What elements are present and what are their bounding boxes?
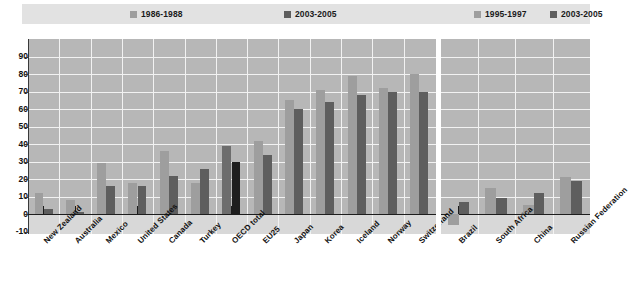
category-gridline — [247, 39, 248, 215]
category-gridline — [153, 39, 154, 215]
category-gridline-lower — [122, 215, 123, 234]
y-axis-tick-mark — [24, 214, 28, 215]
bar — [106, 186, 115, 214]
legend-item-2003-2005-left: 2003-2005 — [284, 4, 337, 24]
category-gridline-lower — [404, 215, 405, 234]
legend-swatch-dark-right-icon — [550, 11, 557, 18]
category-gridline-lower — [278, 215, 279, 234]
legend-item-1995-1997: 1995-1997 — [474, 4, 527, 24]
bar — [388, 92, 397, 215]
legend-item-1986-1988: 1986-1988 — [130, 4, 183, 24]
category-gridline — [216, 39, 217, 215]
category-gridline-lower — [515, 215, 516, 234]
y-axis: 9080706050403020100-10 — [0, 0, 28, 296]
y-axis-tick-mark — [24, 74, 28, 75]
bar — [560, 177, 571, 214]
category-gridline — [278, 39, 279, 215]
category-gridline — [185, 39, 186, 215]
category-gridline-lower — [153, 215, 154, 234]
bar — [128, 183, 137, 215]
category-gridline — [515, 39, 516, 215]
bar — [285, 100, 294, 214]
bar — [254, 141, 263, 215]
panel-divider — [436, 39, 441, 234]
bar — [294, 109, 303, 214]
chart-legend: 1986-1988 2003-2005 1995-1997 2003-2005 — [22, 4, 590, 24]
category-gridline — [404, 39, 405, 215]
category-gridline — [122, 39, 123, 215]
y-axis-tick-mark — [24, 179, 28, 180]
legend-label-1995-1997: 1995-1997 — [485, 9, 527, 19]
y-axis-tick-mark — [24, 144, 28, 145]
category-gridline — [341, 39, 342, 215]
category-gridline-lower — [553, 215, 554, 234]
category-gridline-lower — [341, 215, 342, 234]
bar — [263, 155, 272, 215]
category-gridline-lower — [91, 215, 92, 234]
category-gridline-lower — [247, 215, 248, 234]
y-axis-tick-mark — [24, 92, 28, 93]
category-gridline — [372, 39, 373, 215]
y-axis-tick-mark — [24, 127, 28, 128]
category-gridline — [553, 39, 554, 215]
bar — [232, 162, 241, 215]
category-gridline — [91, 39, 92, 215]
bar — [571, 181, 582, 214]
bar — [496, 198, 507, 214]
bar — [485, 188, 496, 214]
bar — [66, 200, 75, 214]
legend-label-2003-2005-right: 2003-2005 — [561, 9, 603, 19]
bar — [75, 212, 84, 214]
y-axis-tick-mark — [24, 197, 28, 198]
bar — [97, 163, 106, 214]
legend-swatch-light-icon — [130, 11, 137, 18]
bar — [410, 74, 419, 214]
legend-swatch-light-right-icon — [474, 11, 481, 18]
plot-area-lower — [28, 215, 590, 234]
bar — [523, 205, 534, 214]
y-axis-tick-mark — [24, 109, 28, 110]
category-gridline — [59, 39, 60, 215]
bar — [191, 183, 200, 215]
bar — [169, 176, 178, 215]
category-gridline-lower — [59, 215, 60, 234]
zero-baseline — [28, 214, 590, 215]
category-gridline-lower — [372, 215, 373, 234]
y-axis-line — [28, 39, 29, 234]
legend-item-2003-2005-right: 2003-2005 — [550, 4, 603, 24]
category-gridline-lower — [185, 215, 186, 234]
legend-label-2003-2005-left: 2003-2005 — [295, 9, 337, 19]
bar — [379, 88, 388, 214]
bar — [357, 95, 366, 214]
y-axis-tick-mark — [24, 162, 28, 163]
legend-label-1986-1988: 1986-1988 — [141, 9, 183, 19]
bar — [138, 186, 147, 214]
bar — [316, 90, 325, 214]
category-gridline — [310, 39, 311, 215]
bar — [459, 202, 470, 214]
bar — [222, 146, 231, 214]
category-gridline-lower — [216, 215, 217, 234]
y-axis-tick-mark — [24, 57, 28, 58]
bar — [200, 169, 209, 215]
category-gridline — [478, 39, 479, 215]
legend-swatch-dark-icon — [284, 11, 291, 18]
bar — [348, 76, 357, 214]
bar — [35, 193, 44, 214]
bar — [534, 193, 545, 214]
bar — [160, 151, 169, 214]
bar — [44, 209, 53, 214]
y-axis-tick-mark — [24, 232, 28, 233]
category-gridline-lower — [478, 215, 479, 234]
bar — [448, 214, 459, 225]
category-gridline-lower — [310, 215, 311, 234]
bar — [419, 92, 428, 215]
bar — [325, 102, 334, 214]
